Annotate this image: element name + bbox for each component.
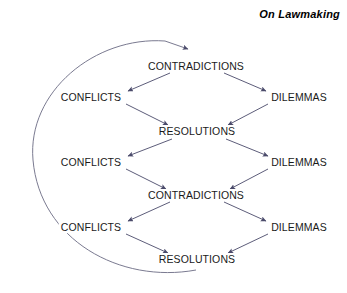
edge-dilemmas3-resolutions2 [228, 234, 268, 253]
node-dilemmas-1: DILEMMAS [269, 91, 329, 103]
node-dilemmas-3: DILEMMAS [269, 221, 329, 233]
edge-contradictions2-dilemmas3 [224, 202, 266, 221]
page-title: On Lawmaking [259, 8, 340, 20]
node-resolutions-1: RESOLUTIONS [157, 125, 237, 137]
edge-dilemmas2-contradictions2 [230, 169, 268, 189]
edge-conflicts1-resolutions1 [126, 104, 168, 125]
node-resolutions-2: RESOLUTIONS [157, 253, 237, 265]
node-conflicts-3: CONFLICTS [59, 221, 123, 233]
node-dilemmas-2: DILEMMAS [269, 156, 329, 168]
diagram-canvas: On Lawmaking CONTRADICTIONS CONFLICTS DI… [0, 0, 347, 293]
edge-contradictions1-dilemmas1 [224, 73, 266, 91]
edge-dilemmas1-resolutions1 [228, 104, 268, 125]
diagram-edges [0, 0, 347, 293]
edge-contradictions1-conflicts1 [128, 73, 170, 91]
edge-contradictions2-conflicts3 [128, 202, 170, 221]
edge-conflicts2-contradictions2 [126, 169, 166, 189]
node-conflicts-1: CONFLICTS [59, 91, 123, 103]
node-conflicts-2: CONFLICTS [59, 156, 123, 168]
edge-resolutions1-dilemmas2 [226, 139, 268, 156]
edge-conflicts3-resolutions2 [126, 234, 168, 253]
node-contradictions-2: CONTRADICTIONS [146, 189, 246, 201]
edge-resolutions1-conflicts2 [128, 139, 172, 156]
node-contradictions-1: CONTRADICTIONS [146, 60, 246, 72]
